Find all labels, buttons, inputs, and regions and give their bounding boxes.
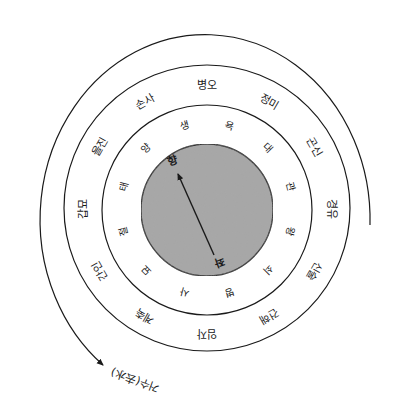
flow-caption: 거수(去水): [109, 365, 161, 395]
life-stage-label: 생: [179, 119, 191, 132]
direction-label: 임자: [197, 327, 217, 340]
direction-label: 정미: [257, 91, 281, 112]
life-stage-label: 태: [117, 181, 130, 193]
direction-label: 간인: [89, 259, 110, 283]
twelve-stage-cycle-diagram: 병오정미곤신경유신술건해임자계축간인갑묘을진손사 욕대관왕쇠병사묘절태양생 향 …: [0, 0, 395, 407]
direction-label: 곤신: [304, 135, 325, 159]
life-stage-label: 왕: [284, 226, 297, 238]
shaded-core-circle: [141, 144, 273, 276]
life-stage-label: 사: [179, 286, 191, 299]
life-stage-label: 욕: [224, 119, 236, 132]
direction-label: 건해: [257, 306, 281, 328]
direction-label: 신술: [304, 259, 325, 283]
life-stage-label: 쇠: [261, 263, 275, 277]
direction-label: 병오: [197, 79, 217, 92]
direction-label: 을진: [89, 135, 110, 159]
direction-label: 갑묘: [77, 199, 90, 219]
life-stage-label: 절: [116, 226, 130, 238]
life-stage-label: 묘: [139, 263, 153, 277]
direction-label: 손사: [133, 91, 157, 112]
life-stage-label: 병: [224, 286, 236, 299]
life-stage-label: 관: [284, 181, 297, 193]
life-stage-label: 대: [261, 141, 275, 155]
direction-label: 경유: [325, 199, 338, 219]
life-stage-label: 양: [139, 141, 153, 155]
direction-label: 계축: [133, 306, 157, 327]
